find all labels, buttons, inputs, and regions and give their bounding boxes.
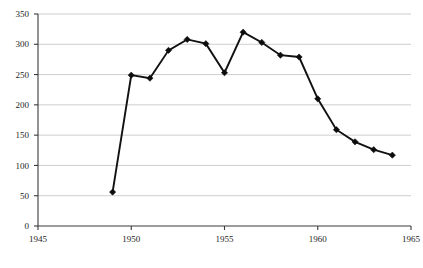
y-tick-label: 300 [16,39,30,49]
y-tick-label: 150 [16,130,30,140]
y-tick-label: 0 [25,221,30,231]
x-tick-label: 1950 [122,234,141,244]
data-point-markers [110,29,396,195]
series-line [113,32,393,192]
data-point-marker [110,189,116,195]
line-chart: 050100150200250300350 194519501955196019… [0,0,423,268]
y-tick-label: 350 [16,9,30,19]
x-tick-label: 1955 [216,234,235,244]
y-axis-tick-labels: 050100150200250300350 [16,9,30,231]
y-tick-label: 50 [20,191,30,201]
x-tick-label: 1945 [29,234,48,244]
gridlines [38,14,411,196]
x-tick-label: 1965 [402,234,421,244]
x-axis-tick-labels: 19451950195519601965 [29,234,421,244]
data-series [113,32,393,192]
y-axis-tick-marks [34,14,38,226]
y-tick-label: 250 [16,70,30,80]
x-axis-tick-marks [38,226,411,230]
data-point-marker [389,152,395,158]
chart-canvas: 050100150200250300350 194519501955196019… [0,0,423,268]
x-tick-label: 1960 [309,234,328,244]
axis-lines [38,14,411,226]
y-tick-label: 100 [16,161,30,171]
data-point-marker [128,72,134,78]
data-point-marker [371,147,377,153]
data-point-marker [296,54,302,60]
y-tick-label: 200 [16,100,30,110]
